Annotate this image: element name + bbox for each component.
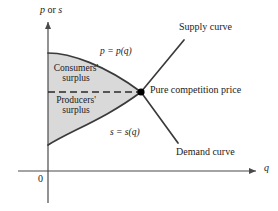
y-axis-label: p or s [40,5,62,16]
y-axis-var2: s [58,4,62,15]
supply-curve-label: Supply curve [179,22,232,33]
origin-label: 0 [38,174,43,185]
demand-equation-label: p = p(q) [100,47,132,57]
pure-competition-price-label: Pure competition price [150,85,241,96]
consumers-surplus-label: Consumers' surplus [45,64,107,84]
producers-surplus-label: Producers' surplus [45,96,107,116]
consumers-surplus-line2: surplus [45,74,107,84]
x-axis-label: q [264,163,269,174]
producers-surplus-line2: surplus [45,106,107,116]
supply-equation-label: s = s(q) [110,128,140,138]
demand-curve-label: Demand curve [176,147,235,158]
supply-demand-figure: p or s q 0 p = p(q) s = s(q) Supply curv… [0,0,278,211]
equilibrium-point-marker [137,88,144,95]
y-axis-conjunction: or [48,4,56,15]
